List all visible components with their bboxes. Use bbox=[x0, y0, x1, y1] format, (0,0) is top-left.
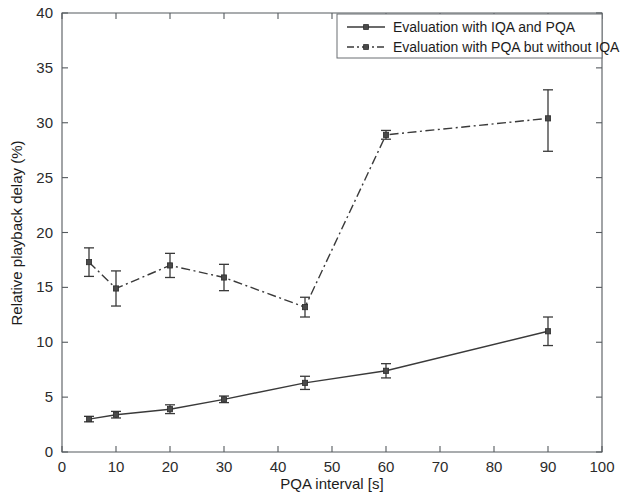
relative-playback-delay-line-chart: 0510152025303540 0102030405060708090100 … bbox=[0, 0, 624, 498]
x-tick-label: 50 bbox=[324, 458, 341, 475]
legend-marker-sample bbox=[364, 25, 369, 30]
y-tick-label: 35 bbox=[36, 59, 53, 76]
x-tick-label: 10 bbox=[108, 458, 125, 475]
data-point-marker bbox=[167, 263, 172, 268]
y-tick-label: 15 bbox=[36, 278, 53, 295]
x-tick-label: 20 bbox=[162, 458, 179, 475]
chart-legend: Evaluation with IQA and PQAEvaluation wi… bbox=[337, 14, 620, 58]
chart-figure: 0510152025303540 0102030405060708090100 … bbox=[0, 0, 624, 498]
data-point-marker bbox=[545, 329, 550, 334]
data-point-marker bbox=[86, 260, 91, 265]
x-tick-label: 80 bbox=[486, 458, 503, 475]
data-point-marker bbox=[113, 286, 118, 291]
data-point-marker bbox=[383, 368, 388, 373]
legend-label: Evaluation with IQA and PQA bbox=[393, 19, 576, 35]
x-tick-label: 60 bbox=[378, 458, 395, 475]
data-point-marker bbox=[113, 412, 118, 417]
legend-marker-sample bbox=[364, 45, 369, 50]
y-axis-title: Relative playback delay (%) bbox=[8, 140, 25, 325]
data-point-marker bbox=[86, 416, 91, 421]
legend-label: Evaluation with PQA but without IQA bbox=[393, 39, 620, 55]
data-point-marker bbox=[167, 407, 172, 412]
y-tick-label: 5 bbox=[45, 388, 53, 405]
x-tick-label: 90 bbox=[540, 458, 557, 475]
data-point-marker bbox=[302, 305, 307, 310]
x-tick-label: 0 bbox=[58, 458, 66, 475]
y-tick-label: 40 bbox=[36, 4, 53, 21]
x-tick-label: 40 bbox=[270, 458, 287, 475]
chart-background bbox=[0, 0, 624, 498]
y-tick-label: 0 bbox=[45, 443, 53, 460]
y-tick-label: 25 bbox=[36, 169, 53, 186]
x-tick-label: 100 bbox=[589, 458, 614, 475]
data-point-marker bbox=[383, 132, 388, 137]
data-point-marker bbox=[221, 397, 226, 402]
y-tick-label: 20 bbox=[36, 224, 53, 241]
x-tick-label: 30 bbox=[216, 458, 233, 475]
y-tick-label: 30 bbox=[36, 114, 53, 131]
data-point-marker bbox=[545, 116, 550, 121]
y-tick-label: 10 bbox=[36, 333, 53, 350]
x-tick-label: 70 bbox=[432, 458, 449, 475]
data-point-marker bbox=[302, 380, 307, 385]
x-axis-title: PQA interval [s] bbox=[280, 475, 383, 492]
data-point-marker bbox=[221, 275, 226, 280]
